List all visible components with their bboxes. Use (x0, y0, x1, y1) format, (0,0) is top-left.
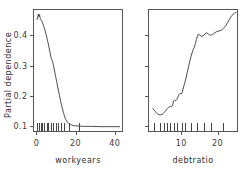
x-tick-label: 20 (70, 139, 81, 148)
y-axis-tick-labels-left: 0.10.20.30.4 (14, 31, 28, 131)
rug-plot-right (155, 123, 224, 131)
panel-workyears: 0.10.20.30.4 02040 workyears (14, 10, 123, 166)
y-axis-ticks-right (145, 36, 149, 127)
y-tick-label: 0.2 (14, 92, 28, 101)
plot-canvas: Partial dependence 0.10.20.30.4 02040 wo… (0, 0, 248, 180)
x-tick-label: 0 (34, 139, 40, 148)
partial-dependence-curve-right (153, 12, 236, 115)
y-axis-title: Partial dependence (4, 32, 13, 118)
plot-frame-left (34, 10, 123, 132)
x-axis-title-left: workyears (55, 156, 101, 165)
x-axis-tick-labels-right: 1020 (176, 139, 223, 148)
x-tick-label: 40 (109, 139, 120, 148)
x-tick-label: 20 (212, 139, 223, 148)
y-axis-title-text: Partial dependence (4, 32, 13, 118)
y-tick-label: 0.3 (14, 62, 28, 71)
y-tick-label: 0.1 (14, 122, 28, 131)
y-tick-label: 0.4 (14, 31, 28, 40)
x-axis-ticks-left (37, 132, 116, 136)
rug-plot-left (38, 123, 80, 131)
panel-debtratio: 1020 debtratio (145, 10, 238, 166)
partial-dependence-curve-left (37, 14, 120, 127)
x-axis-tick-labels-left: 02040 (34, 139, 120, 148)
y-axis-ticks-left (30, 36, 34, 127)
x-axis-title-right: debtratio (172, 156, 213, 165)
partial-dependence-figure: Partial dependence 0.10.20.30.4 02040 wo… (0, 0, 248, 180)
x-axis-ticks-right (182, 132, 219, 136)
x-tick-label: 10 (176, 139, 187, 148)
